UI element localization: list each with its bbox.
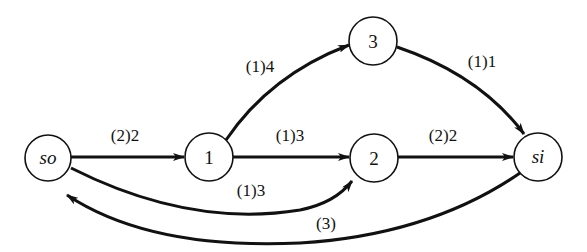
- edge-label-2-si: (2)2: [429, 126, 457, 145]
- edge-label-so-1: (2)2: [111, 126, 139, 145]
- node-3: 3: [349, 17, 397, 65]
- node-si: si: [514, 133, 562, 181]
- node-label-1: 1: [204, 147, 214, 168]
- edge-label-so-2: (1)3: [237, 181, 265, 200]
- edge-label-1-3: (1)4: [246, 57, 275, 76]
- edge-label-1-2: (1)3: [276, 126, 304, 145]
- node-label-3: 3: [368, 31, 378, 52]
- edge-3-si: [397, 47, 524, 134]
- edge-si-so: [67, 173, 520, 244]
- node-1: 1: [185, 133, 233, 181]
- node-so: so: [25, 135, 71, 181]
- node-label-so: so: [40, 147, 57, 168]
- flow-network-diagram: (2)2 (1)4 (1)3 (1)1 (2)2 (1)3 (3) so 1 3…: [0, 0, 587, 252]
- edge-label-si-so: (3): [316, 214, 336, 233]
- node-2: 2: [350, 134, 398, 182]
- edge-label-3-si: (1)1: [468, 52, 496, 71]
- node-label-2: 2: [369, 148, 379, 169]
- node-label-si: si: [532, 146, 545, 167]
